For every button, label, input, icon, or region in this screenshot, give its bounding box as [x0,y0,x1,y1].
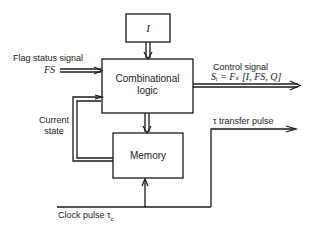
current-state-label: Current state [36,115,72,136]
current-state-line2: state [36,126,72,136]
memory-label: Memory [113,150,183,162]
clock-pulse-subscript: c [111,216,114,222]
flag-status-signal-label: Flag status signal [13,53,83,63]
fs-symbol-label: FS [44,65,55,75]
control-signal-formula: Sᵢ = Fₛ [I, FS, Q] [211,72,281,82]
combinational-logic-line2: logic [102,85,193,97]
transfer-pulse-label: τ transfer pulse [213,116,274,126]
current-state-line1: Current [36,115,72,125]
input-block-label: I [126,22,170,34]
clock-pulse-label: Clock pulse τc [58,210,114,224]
clock-pulse-text: Clock pulse τ [58,210,111,220]
combinational-logic-line1: Combinational [102,73,193,85]
combinational-logic-label: Combinational logic [102,73,193,97]
